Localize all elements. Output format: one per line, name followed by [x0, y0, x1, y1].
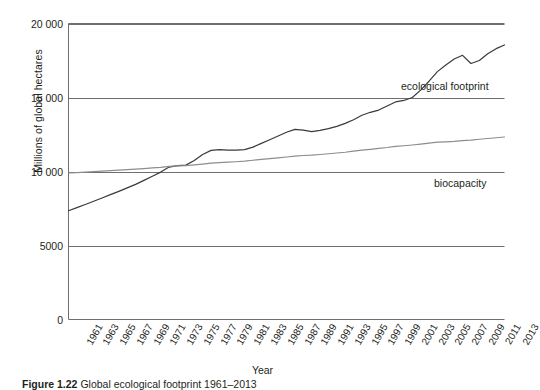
series-annotation-ecological-footprint: ecological footprint — [401, 80, 489, 92]
x-tick-label-1999: 1999 — [402, 322, 423, 347]
x-tick-label-1977: 1977 — [218, 322, 239, 347]
axis-frame — [69, 24, 505, 320]
x-tick-label-2001: 2001 — [419, 322, 440, 347]
x-tick-label-1961: 1961 — [84, 322, 105, 347]
x-tick-label-1969: 1969 — [151, 322, 172, 347]
series-annotation-biocapacity: biocapacity — [434, 177, 487, 189]
y-tick-label-15000: 15 000 — [0, 92, 63, 104]
x-tick-label-1987: 1987 — [302, 322, 323, 347]
x-axis-tick-labels: 1961196319651967196919711973197519771979… — [0, 322, 525, 370]
plot-area: ecological footprint biocapacity — [68, 23, 505, 320]
x-axis-title: Year — [0, 364, 525, 376]
x-tick-label-1975: 1975 — [201, 322, 222, 347]
y-tick-label-20000: 20 000 — [0, 18, 63, 30]
chart-svg — [68, 23, 505, 320]
x-tick-label-2013: 2013 — [520, 322, 540, 347]
y-tick-label-10000: 10 000 — [0, 166, 63, 178]
gridlines — [69, 25, 505, 247]
y-tick-label-5000: 5000 — [0, 240, 63, 252]
x-tick-label-2011: 2011 — [502, 322, 522, 346]
x-tick-label-1993: 1993 — [352, 322, 373, 347]
figure-caption: Figure 1.22 Global ecological footprint … — [22, 378, 257, 390]
x-tick-label-2005: 2005 — [453, 322, 474, 347]
x-tick-label-1983: 1983 — [268, 322, 289, 347]
x-tick-label-1971: 1971 — [167, 322, 188, 347]
x-tick-label-1989: 1989 — [318, 322, 339, 347]
series-line-biocapacity — [69, 137, 505, 173]
x-tick-label-1985: 1985 — [285, 322, 306, 347]
x-tick-label-2009: 2009 — [486, 322, 507, 347]
x-tick-label-1973: 1973 — [184, 322, 205, 347]
figure-caption-text: Global ecological footprint 1961–2013 — [80, 378, 256, 390]
x-tick-label-2007: 2007 — [469, 322, 490, 347]
x-tick-label-1979: 1979 — [235, 322, 256, 347]
figure-caption-number: Figure 1.22 — [22, 378, 77, 390]
x-tick-label-1965: 1965 — [117, 322, 138, 347]
x-tick-label-1967: 1967 — [134, 322, 155, 347]
x-tick-label-1981: 1981 — [251, 322, 272, 347]
x-tick-label-1997: 1997 — [385, 322, 406, 347]
x-tick-label-2003: 2003 — [436, 322, 457, 347]
x-tick-label-1991: 1991 — [335, 322, 356, 347]
x-tick-label-1995: 1995 — [369, 322, 390, 347]
x-tick-label-1963: 1963 — [100, 322, 121, 347]
